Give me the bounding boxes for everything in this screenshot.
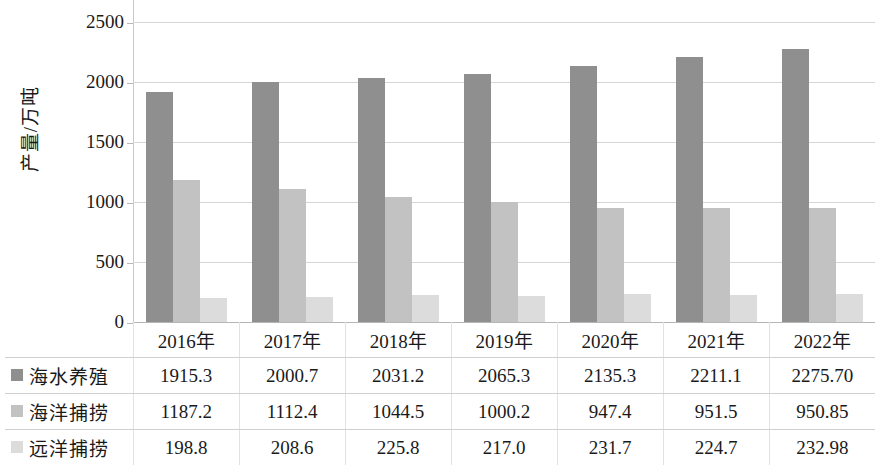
bar-远洋捕捞-2020年[interactable] [624, 294, 651, 322]
plot-canvas [133, 0, 875, 322]
table-cell-海洋捕捞-2019年: 1000.2 [451, 394, 557, 430]
table-cell-海水养殖-2016年: 1915.3 [133, 358, 239, 394]
bar-海洋捕捞-2020年[interactable] [597, 208, 624, 322]
table-cell-海洋捕捞-2016年: 1187.2 [133, 394, 239, 430]
legend-swatch-icon [11, 405, 23, 417]
bar-group [451, 0, 557, 322]
bar-group [345, 0, 451, 322]
bar-海水养殖-2019年[interactable] [464, 74, 491, 322]
legend-swatch-icon [11, 441, 23, 453]
table-corner-cell [5, 322, 133, 358]
y-tick-2000: 2000 [56, 72, 124, 91]
table-body: 海水养殖1915.32000.72031.22065.32135.32211.1… [5, 358, 875, 466]
legend-label: 远洋捕捞 [29, 439, 109, 460]
table-cell-海水养殖-2021年: 2211.1 [663, 358, 769, 394]
bar-海洋捕捞-2017年[interactable] [279, 189, 306, 322]
bar-海洋捕捞-2019年[interactable] [491, 202, 518, 322]
bar-group [663, 0, 769, 322]
legend-item-海洋捕捞[interactable]: 海洋捕捞 [5, 394, 133, 430]
column-header-2022: 2022年 [769, 322, 875, 358]
table-cell-海洋捕捞-2020年: 947.4 [557, 394, 663, 430]
table-cell-远洋捕捞-2018年: 225.8 [345, 430, 451, 466]
table-row: 海洋捕捞1187.21112.41044.51000.2947.4951.595… [5, 394, 875, 430]
bar-远洋捕捞-2019年[interactable] [518, 296, 545, 322]
data-table-wrapper: 2016年 2017年 2018年 2019年 2020年 2021年 2022… [5, 322, 875, 466]
bar-海洋捕捞-2018年[interactable] [385, 197, 412, 322]
bar-groups [133, 0, 875, 322]
table-cell-远洋捕捞-2016年: 198.8 [133, 430, 239, 466]
y-tick-2500: 2500 [56, 12, 124, 31]
table-cell-海水养殖-2018年: 2031.2 [345, 358, 451, 394]
bar-group [557, 0, 663, 322]
table-cell-远洋捕捞-2021年: 224.7 [663, 430, 769, 466]
table-cell-远洋捕捞-2017年: 208.6 [239, 430, 345, 466]
bar-海水养殖-2017年[interactable] [252, 82, 279, 322]
bar-海洋捕捞-2016年[interactable] [173, 180, 200, 322]
y-tick-1500: 1500 [56, 132, 124, 151]
bar-海水养殖-2021年[interactable] [676, 57, 703, 322]
legend-label: 海洋捕捞 [29, 403, 109, 424]
column-header-2017: 2017年 [239, 322, 345, 358]
table-cell-远洋捕捞-2020年: 231.7 [557, 430, 663, 466]
table-cell-海水养殖-2019年: 2065.3 [451, 358, 557, 394]
bar-远洋捕捞-2022年[interactable] [836, 294, 863, 322]
legend-item-海水养殖[interactable]: 海水养殖 [5, 358, 133, 394]
table-cell-海洋捕捞-2021年: 951.5 [663, 394, 769, 430]
bar-group [769, 0, 875, 322]
bar-远洋捕捞-2017年[interactable] [306, 297, 333, 322]
y-tick-500: 500 [56, 252, 124, 271]
legend-item-远洋捕捞[interactable]: 远洋捕捞 [5, 430, 133, 466]
legend-swatch-icon [11, 369, 23, 381]
column-header-2019: 2019年 [451, 322, 557, 358]
table-row: 海水养殖1915.32000.72031.22065.32135.32211.1… [5, 358, 875, 394]
y-axis-title: 产量/万吨 [15, 59, 37, 199]
table-cell-海水养殖-2022年: 2275.70 [769, 358, 875, 394]
table-cell-海水养殖-2020年: 2135.3 [557, 358, 663, 394]
y-tick-1000: 1000 [56, 192, 124, 211]
bar-海水养殖-2020年[interactable] [570, 66, 597, 322]
column-header-2016: 2016年 [133, 322, 239, 358]
column-header-2020: 2020年 [557, 322, 663, 358]
bar-远洋捕捞-2018年[interactable] [412, 295, 439, 322]
bar-远洋捕捞-2016年[interactable] [200, 298, 227, 322]
chart-root: 产量/万吨 2500 2000 1500 1000 500 0 [0, 0, 875, 466]
data-table: 2016年 2017年 2018年 2019年 2020年 2021年 2022… [5, 322, 875, 465]
column-header-2018: 2018年 [345, 322, 451, 358]
table-cell-海洋捕捞-2022年: 950.85 [769, 394, 875, 430]
table-cell-海洋捕捞-2018年: 1044.5 [345, 394, 451, 430]
bar-海洋捕捞-2022年[interactable] [809, 208, 836, 322]
bar-海水养殖-2018年[interactable] [358, 78, 385, 322]
table-header-row: 2016年 2017年 2018年 2019年 2020年 2021年 2022… [5, 322, 875, 358]
table-cell-远洋捕捞-2022年: 232.98 [769, 430, 875, 466]
table-row: 远洋捕捞198.8208.6225.8217.0231.7224.7232.98 [5, 430, 875, 466]
plot-area: 产量/万吨 2500 2000 1500 1000 500 0 [0, 0, 875, 322]
bar-海水养殖-2016年[interactable] [146, 92, 173, 322]
bar-海洋捕捞-2021年[interactable] [703, 208, 730, 322]
bar-远洋捕捞-2021年[interactable] [730, 295, 757, 322]
bar-海水养殖-2022年[interactable] [782, 49, 809, 322]
table-cell-海洋捕捞-2017年: 1112.4 [239, 394, 345, 430]
bar-group [239, 0, 345, 322]
legend-label: 海水养殖 [29, 367, 109, 388]
bar-group [133, 0, 239, 322]
table-cell-海水养殖-2017年: 2000.7 [239, 358, 345, 394]
column-header-2021: 2021年 [663, 322, 769, 358]
table-cell-远洋捕捞-2019年: 217.0 [451, 430, 557, 466]
y-axis-tick-labels: 2500 2000 1500 1000 500 0 [56, 0, 124, 322]
